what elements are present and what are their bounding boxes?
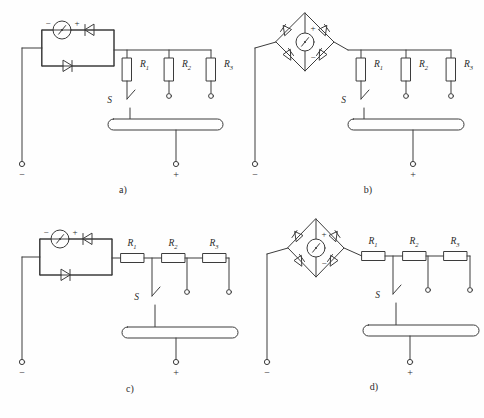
terminal-r3-c	[227, 290, 232, 295]
resistor-r3-b	[447, 58, 456, 81]
panel-caption-a: a)	[119, 184, 127, 196]
negative-sign-c: −	[19, 367, 25, 378]
negative-sign-d: −	[264, 367, 270, 378]
ammeter-pivot-b	[304, 41, 306, 43]
positive-terminal-a	[173, 161, 178, 166]
switch-label-d: S	[375, 290, 380, 300]
resistor-r2-a	[165, 58, 174, 81]
canvas-background	[0, 0, 484, 418]
circuit-diagram-figure: − + R1 R2 R3 S − + a) + − R1 R2 R3 S − +…	[0, 0, 484, 418]
figure-sheet: − + R1 R2 R3 S − + a) + − R1 R2 R3 S − +…	[0, 0, 484, 418]
positive-terminal-d	[407, 359, 412, 364]
ammeter-pivot-a	[61, 29, 63, 31]
meter-plus-label-d: +	[321, 229, 326, 239]
negative-sign-a: −	[19, 169, 25, 180]
positive-sign-c: +	[173, 367, 179, 378]
negative-terminal-b	[252, 161, 257, 166]
negative-terminal-c	[19, 359, 24, 364]
switch-label-b: S	[341, 95, 346, 105]
resistor-r1-a	[123, 58, 132, 81]
meter-minus-label-b: −	[310, 52, 315, 62]
terminal-r2-a	[167, 94, 172, 99]
meter-minus-label-d: −	[321, 258, 326, 268]
resistor-r1-b	[357, 58, 366, 81]
resistor-r3-a	[207, 58, 216, 81]
switch-label-c: S	[134, 292, 139, 302]
busbar-rail-d	[363, 325, 479, 336]
positive-sign-a: +	[173, 169, 179, 180]
terminal-r2-d	[426, 288, 431, 293]
terminal-r3-b	[449, 94, 454, 99]
meter-plus-label-a: +	[74, 18, 79, 28]
terminal-r2-b	[404, 94, 409, 99]
meter-plus-label-c: +	[72, 227, 77, 237]
resistor-r3-c	[203, 254, 226, 263]
ammeter-pivot-c	[59, 238, 61, 240]
panel-caption-b: b)	[364, 184, 372, 196]
positive-terminal-c	[173, 359, 178, 364]
resistor-r2-d	[403, 252, 426, 261]
negative-sign-b: −	[252, 169, 258, 180]
busbar-rail-c	[122, 327, 238, 338]
positive-sign-b: +	[410, 169, 416, 180]
resistor-r1-d	[362, 252, 385, 261]
resistor-r2-c	[162, 254, 185, 263]
resistor-r1-c	[121, 254, 144, 263]
busbar-rail-a	[108, 119, 223, 130]
negative-terminal-d	[264, 359, 269, 364]
meter-plus-label-b: +	[310, 23, 315, 33]
switch-label-a: S	[107, 95, 112, 105]
meter-minus-label-a: −	[45, 18, 50, 28]
resistor-r3-d	[444, 252, 467, 261]
ammeter-pivot-d	[315, 247, 317, 249]
busbar-rail-b	[348, 119, 464, 130]
terminal-r3-a	[209, 94, 214, 99]
positive-terminal-b	[410, 161, 415, 166]
resistor-r2-b	[402, 58, 411, 81]
negative-terminal-a	[19, 161, 24, 166]
meter-minus-label-c: −	[43, 227, 48, 237]
panel-caption-d: d)	[370, 381, 378, 393]
panel-caption-c: c)	[126, 383, 134, 395]
positive-sign-d: +	[407, 367, 413, 378]
terminal-r2-c	[185, 290, 190, 295]
terminal-r3-d	[468, 288, 473, 293]
